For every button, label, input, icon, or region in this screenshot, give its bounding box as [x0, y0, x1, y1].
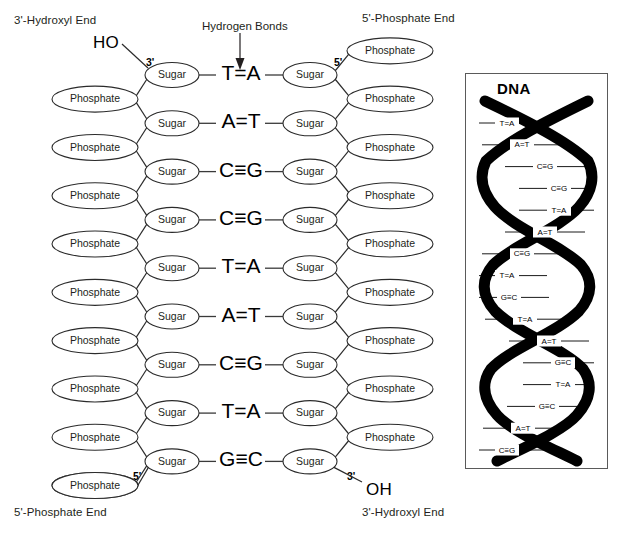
sugar-node-left-9: Sugar: [145, 449, 199, 474]
base-pair-6: A=T: [201, 303, 281, 327]
svg-text:Sugar: Sugar: [296, 68, 325, 80]
phosphate-node-left-5: Phosphate: [52, 279, 138, 305]
helix-base-pair-14: G≡C: [539, 402, 556, 411]
svg-text:Sugar: Sugar: [296, 261, 325, 273]
helix-base-pair-13: T=A: [556, 380, 572, 389]
svg-text:Phosphate: Phosphate: [365, 382, 415, 394]
svg-text:Phosphate: Phosphate: [70, 334, 120, 346]
base-pair-2: A=T: [201, 109, 281, 133]
svg-text:Phosphate: Phosphate: [70, 431, 120, 443]
helix-base-pair-9: G≡C: [501, 293, 518, 302]
helix-base-pair-5: T=A: [552, 206, 568, 215]
phosphate-node-right-3: Phosphate: [347, 134, 433, 160]
phosphate-node-right-6: Phosphate: [347, 279, 433, 305]
helix-base-pair-8: T=A: [500, 271, 516, 280]
svg-text:Sugar: Sugar: [158, 455, 187, 467]
svg-text:Phosphate: Phosphate: [70, 479, 120, 491]
dna-double-helix-graphic: T=AA=TC≡GC≡GT=AA=TC≡GT=AG≡CT=AA=TG≡CT=AG…: [467, 95, 606, 467]
sugar-node-left-3: Sugar: [145, 159, 199, 184]
helix-base-pair-6: A=T: [538, 228, 553, 237]
sugar-node-right-7: Sugar: [283, 352, 337, 377]
svg-text:Phosphate: Phosphate: [365, 431, 415, 443]
svg-text:Sugar: Sugar: [296, 358, 325, 370]
svg-text:Sugar: Sugar: [158, 213, 187, 225]
phosphate-node-left-terminal: Phosphate: [52, 473, 138, 499]
sugar-node-left-1: Sugar: [145, 63, 199, 88]
helix-base-pair-1: T=A: [500, 119, 516, 128]
svg-text:Sugar: Sugar: [296, 455, 325, 467]
svg-text:Phosphate: Phosphate: [365, 334, 415, 346]
svg-text:Sugar: Sugar: [158, 261, 187, 273]
sugar-node-left-5: Sugar: [145, 256, 199, 281]
helix-base-pair-4: C≡G: [551, 184, 568, 193]
phosphate-node-right-2: Phosphate: [347, 86, 433, 112]
svg-text:Sugar: Sugar: [296, 165, 325, 177]
svg-text:Phosphate: Phosphate: [365, 92, 415, 104]
sugar-node-right-4: Sugar: [283, 207, 337, 232]
sugar-node-right-1: Sugar: [283, 63, 337, 88]
phosphate-node-right-5: Phosphate: [347, 231, 433, 257]
sugar-node-right-9: Sugar: [283, 449, 337, 474]
base-pair-7: C≡G: [201, 351, 281, 375]
sugar-node-right-2: Sugar: [283, 111, 337, 136]
svg-text:Phosphate: Phosphate: [365, 286, 415, 298]
helix-base-pair-15: A=T: [516, 424, 531, 433]
phosphate-node-right-9: Phosphate: [347, 424, 433, 450]
svg-text:Phosphate: Phosphate: [70, 286, 120, 298]
phosphate-node-left-2: Phosphate: [52, 134, 138, 160]
helix-base-pair-7: C≡G: [514, 249, 531, 258]
sugar-node-left-2: Sugar: [145, 111, 199, 136]
base-pair-9: G≡C: [201, 447, 281, 471]
sugar-node-right-8: Sugar: [283, 401, 337, 426]
sugar-node-left-6: Sugar: [145, 304, 199, 329]
helix-base-pair-12: G≡C: [555, 358, 572, 367]
phosphate-node-right-4: Phosphate: [347, 183, 433, 209]
svg-text:Phosphate: Phosphate: [70, 382, 120, 394]
base-pair-1: T=A: [201, 61, 281, 85]
helix-base-pair-labels: T=AA=TC≡GC≡GT=AA=TC≡GT=AG≡CT=AA=TG≡CT=AG…: [495, 118, 575, 456]
svg-text:Sugar: Sugar: [158, 406, 187, 418]
helix-base-pair-3: C≡G: [537, 162, 554, 171]
svg-text:Sugar: Sugar: [296, 117, 325, 129]
phosphate-node-left-1: Phosphate: [52, 86, 138, 112]
svg-text:Sugar: Sugar: [158, 358, 187, 370]
phosphate-node-left-3: Phosphate: [52, 183, 138, 209]
svg-text:Phosphate: Phosphate: [365, 189, 415, 201]
phosphate-node-left-6: Phosphate: [52, 328, 138, 354]
base-pair-3: C≡G: [201, 158, 281, 182]
svg-text:Phosphate: Phosphate: [70, 141, 120, 153]
phosphate-node-right-7: Phosphate: [347, 328, 433, 354]
helix-base-pair-10: T=A: [518, 315, 534, 324]
svg-text:Sugar: Sugar: [158, 310, 187, 322]
svg-text:Phosphate: Phosphate: [70, 189, 120, 201]
helix-base-pair-2: A=T: [515, 140, 530, 149]
phosphate-node-left-4: Phosphate: [52, 231, 138, 257]
sugar-node-right-5: Sugar: [283, 256, 337, 281]
dna-structure-diagram: 3'-Hydroxyl End 5'-Phosphate End 5'-Phos…: [0, 0, 617, 535]
helix-base-pair-16: C≡G: [499, 446, 516, 455]
base-pair-8: T=A: [201, 399, 281, 423]
svg-text:Phosphate: Phosphate: [70, 237, 120, 249]
sugar-node-right-3: Sugar: [283, 159, 337, 184]
svg-text:Sugar: Sugar: [158, 68, 187, 80]
phosphate-node-right-8: Phosphate: [347, 376, 433, 402]
sugar-node-left-4: Sugar: [145, 207, 199, 232]
phosphate-node-left-8: Phosphate: [52, 424, 138, 450]
base-pair-4: C≡G: [201, 206, 281, 230]
sugar-node-left-8: Sugar: [145, 401, 199, 426]
sugar-node-right-6: Sugar: [283, 304, 337, 329]
svg-text:Sugar: Sugar: [158, 165, 187, 177]
svg-text:Phosphate: Phosphate: [365, 237, 415, 249]
svg-text:Sugar: Sugar: [296, 310, 325, 322]
helix-base-pair-11: A=T: [542, 337, 557, 346]
svg-text:Phosphate: Phosphate: [70, 92, 120, 104]
phosphate-node-left-7: Phosphate: [52, 376, 138, 402]
sugar-node-left-7: Sugar: [145, 352, 199, 377]
svg-text:Sugar: Sugar: [296, 213, 325, 225]
svg-text:Sugar: Sugar: [296, 406, 325, 418]
phosphate-node-right-1: Phosphate: [347, 38, 433, 64]
svg-text:Phosphate: Phosphate: [365, 141, 415, 153]
svg-text:Phosphate: Phosphate: [365, 44, 415, 56]
base-pair-5: T=A: [201, 254, 281, 278]
svg-text:Sugar: Sugar: [158, 117, 187, 129]
